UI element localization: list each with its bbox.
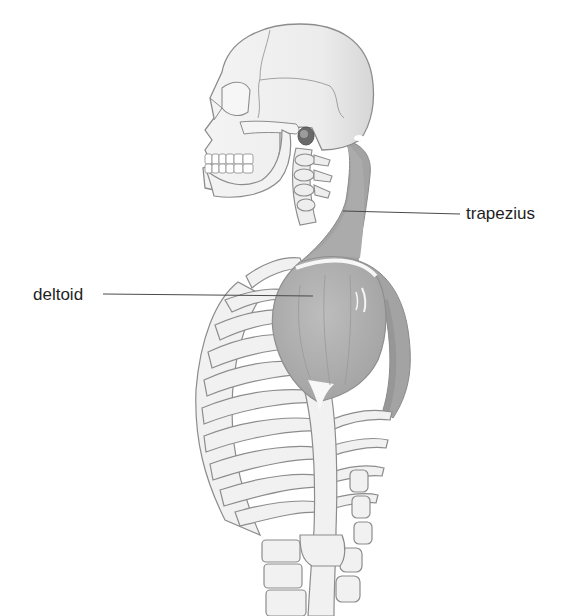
skull [203,24,374,197]
deltoid-muscle [272,257,386,412]
label-trapezius: trapezius [466,205,535,222]
cervical-spine [293,148,332,225]
anatomy-illustration [0,0,574,616]
teeth [205,154,253,173]
anatomy-diagram: trapezius deltoid [0,0,574,616]
label-deltoid: deltoid [33,286,83,303]
